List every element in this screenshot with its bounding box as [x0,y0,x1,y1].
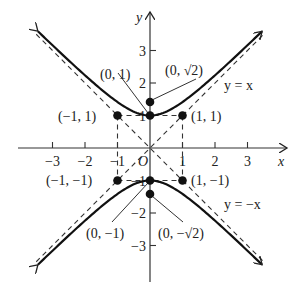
point-neg1-neg1-dot [113,176,122,185]
x-axis-label: x [277,154,285,169]
point-0-sqrt2-dot [146,98,155,107]
x-tick-label: 3 [244,154,251,169]
point-1-neg1-dot [178,176,187,185]
x-tick-label: −2 [78,154,93,169]
x-tick-label: −1 [110,154,125,169]
origin-label: O [138,154,148,169]
point-0-neg-sqrt2-leader-line [152,196,183,222]
point-0-neg1-dot [146,176,155,185]
asymptote-label-y-equals-x: y = x [224,78,253,93]
y-tick-label: −2 [131,206,146,221]
point-0-neg-sqrt2-dot [146,190,155,199]
hyperbola-diagram: −3−2−1123321−1−2−3 x y O y = x y = −x (0… [0,0,299,293]
point-1-neg1-label: (1, −1) [191,173,230,189]
point-0-neg1-label: (0, −1) [86,226,125,242]
point-0-1-dot [146,111,155,120]
y-axis-label: y [134,10,143,25]
point-neg1-neg1-label: (−1, −1) [46,173,92,189]
asymptote-label-y-equals-neg-x: y = −x [224,197,261,212]
x-tick-label: −3 [45,154,60,169]
point-0-sqrt2-label: (0, √2) [165,63,203,79]
x-tick-label: 2 [212,154,219,169]
y-tick-label: 3 [139,44,146,59]
point-neg1-1-dot [113,111,122,120]
point-1-1-label: (1, 1) [191,109,222,125]
point-0-1-label: (0, 1) [100,67,131,83]
point-neg1-1-label: (−1, 1) [58,109,97,125]
y-tick-label: 2 [139,76,146,91]
y-tick-label: −3 [131,239,146,254]
x-tick-label: 1 [179,154,186,169]
point-0-neg-sqrt2-label: (0, −√2) [158,226,204,242]
point-1-1-dot [178,111,187,120]
